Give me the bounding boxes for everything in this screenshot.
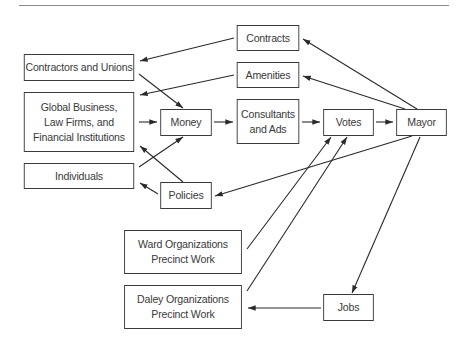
node-label: Daley Organizations Precinct Work [137,292,229,322]
node-contractors-and-unions: Contractors and Unions [24,54,134,81]
node-label: Jobs [338,300,360,315]
edge-mayor-to-jobs-arrow [352,137,420,293]
node-mayor: Mayor [396,109,447,136]
node-amenities: Amenities [237,62,300,88]
node-label: Contractors and Unions [25,60,132,75]
node-individuals: Individuals [24,163,134,189]
node-label: Amenities [246,68,291,83]
node-label: Votes [336,115,362,130]
node-daley-organizations: Daley Organizations Precinct Work [124,285,242,329]
node-label: Contracts [246,31,290,46]
edge-mayor-to-contracts-arrow [303,39,417,109]
edge-policies-to-individuals-arrow [140,183,158,194]
node-jobs: Jobs [323,294,374,321]
node-label: Money [171,115,202,130]
node-policies: Policies [160,182,212,209]
node-money: Money [160,109,212,136]
node-consultants-and-ads: Consultants and Ads [237,99,300,144]
node-ward-organizations: Ward Organizations Precinct Work [124,230,242,274]
edge-ward-to-votes-arrow [247,137,331,249]
node-label: Consultants and Ads [241,107,295,137]
node-label: Ward Organizations Precinct Work [138,237,228,267]
edge-mayor-to-policies-arrow [215,136,412,196]
node-label: Mayor [407,115,435,130]
edge-individuals-to-money-arrow [139,137,183,167]
node-votes: Votes [323,109,374,136]
node-label: Global Business, Law Firms, and Financia… [33,100,125,145]
node-label: Individuals [55,169,103,184]
edge-daley-to-votes-arrow [247,137,347,291]
node-contracts: Contracts [237,25,300,51]
node-label: Policies [169,188,204,203]
edge-contracts-to-contractors-arrow [140,38,234,61]
node-global-business: Global Business, Law Firms, and Financia… [24,92,134,152]
